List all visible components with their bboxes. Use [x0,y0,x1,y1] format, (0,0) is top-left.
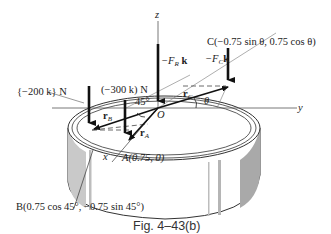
z-axis-label: z [154,9,159,20]
point-b-label: B(0.75 cos 45°, −0.75 sin 45°) [16,201,145,213]
origin-label: O [157,109,165,120]
figure-caption: Fig. 4–43(b) [133,219,200,233]
diagram-figure: z y x O {−200 k} N (−300 k) N −FR k −FCk… [0,0,331,234]
force-c-label: −FCk [205,53,229,66]
y-axis-label: y [297,102,303,113]
force-200-label: {−200 k} N [17,86,67,97]
point-c-label: C(−0.75 sin θ, 0.75 cos θ) [207,36,316,48]
x-axis-label: x [102,151,108,162]
point-a-label: A(0.75, 0) [121,152,165,164]
resultant-force-label: −FR k [161,55,187,68]
angle-45-label: 45° [135,96,150,107]
force-300-label: (−300 k) N [101,84,148,96]
theta-label: θ [204,95,209,106]
